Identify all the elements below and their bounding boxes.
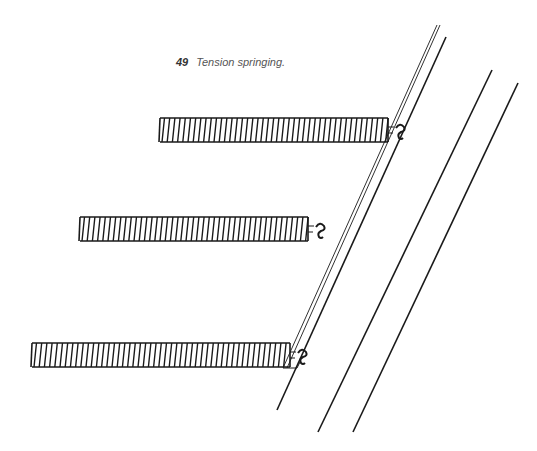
figure-canvas: 49Tension springing.: [0, 0, 537, 451]
middle-spring: [79, 217, 325, 241]
seat-rail-left: [318, 70, 492, 432]
top-spring: [159, 118, 405, 142]
seat-rail-right: [353, 83, 518, 432]
tension-springing-diagram: [0, 0, 537, 451]
spring-hook: [308, 226, 314, 232]
spring-clip-icon: [316, 224, 325, 238]
bottom-spring: [31, 343, 307, 367]
frame-rail-double-inner: [287, 25, 440, 368]
frame-rail-double-outer: [283, 25, 437, 368]
